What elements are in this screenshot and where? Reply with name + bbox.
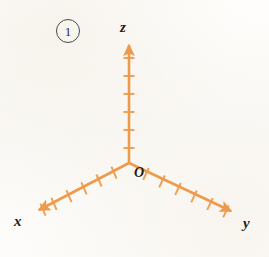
axis-x — [39, 163, 129, 216]
origin-label: O — [134, 166, 144, 180]
coordinate-axes-diagram — [0, 0, 269, 257]
axis-label-z: z — [120, 20, 126, 35]
axis-y — [129, 163, 231, 217]
figure-number-text: 1 — [65, 25, 72, 38]
axis-label-x: x — [14, 214, 22, 229]
figure-number-badge: 1 — [56, 19, 80, 43]
axis-label-y: y — [243, 216, 250, 231]
axis-z — [124, 45, 135, 163]
figure-canvas: 1 z y x O — [0, 0, 269, 257]
